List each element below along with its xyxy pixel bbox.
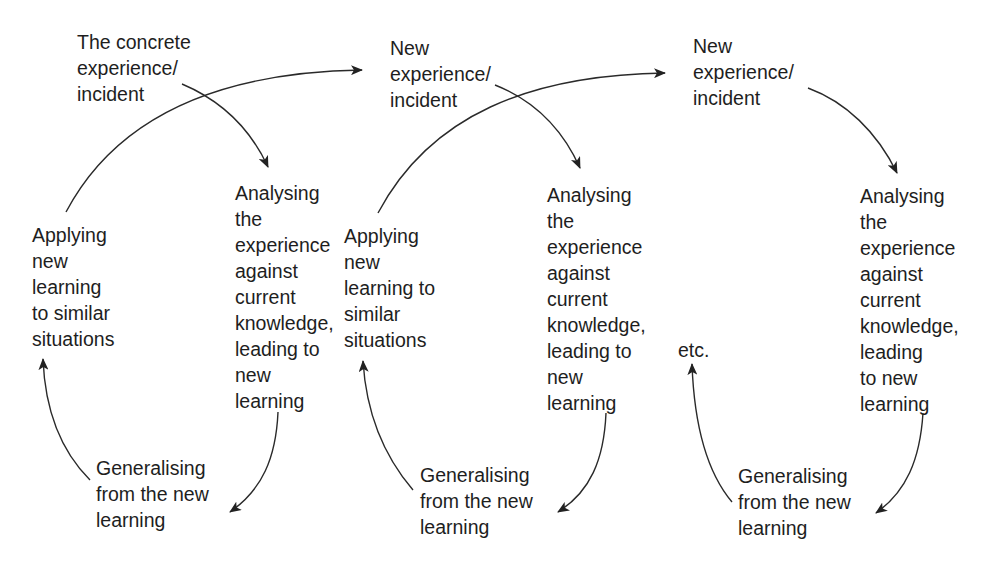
text-line: experience <box>235 232 334 258</box>
text-line: Analysing <box>547 182 646 208</box>
text-line: from the new <box>738 489 851 515</box>
arrow-generalising-to-applying-1 <box>43 359 90 480</box>
arrow-experience-to-analysing-3 <box>808 88 897 173</box>
text-line: from the new <box>96 481 209 507</box>
text-line: The concrete <box>77 29 191 55</box>
text-line: knowledge, <box>547 312 646 338</box>
arrow-generalising-to-applying-2 <box>363 361 413 490</box>
text-line: new <box>32 248 114 274</box>
text-line: against <box>547 260 646 286</box>
text-line: leading <box>860 339 959 365</box>
arrow-analysing-to-generalising-2 <box>558 413 606 512</box>
cycle-1-analysing-label: Analysing the experience against current… <box>235 180 334 414</box>
text-line: the <box>860 209 959 235</box>
text-line: from the new <box>420 488 533 514</box>
cycle-1-experience-label: The concrete experience/ incident <box>77 29 191 107</box>
text-line: against <box>235 258 334 284</box>
text-line: Generalising <box>738 463 851 489</box>
cycle-2-analysing-label: Analysing the experience against current… <box>547 182 646 416</box>
text-line: current <box>547 286 646 312</box>
text-line: knowledge, <box>235 310 334 336</box>
text-line: learning <box>235 388 334 414</box>
cycle-1-generalising-label: Generalising from the new learning <box>96 455 209 533</box>
text-line: incident <box>390 87 491 113</box>
text-line: experience/ <box>77 55 191 81</box>
text-line: learning <box>32 274 114 300</box>
text-line: incident <box>77 81 191 107</box>
text-line: New <box>390 35 491 61</box>
text-line: new <box>344 249 435 275</box>
text-line: etc. <box>678 337 709 363</box>
text-line: to similar <box>32 300 114 326</box>
cycle-2-experience-label: New experience/ incident <box>390 35 491 113</box>
text-line: situations <box>344 327 435 353</box>
text-line: incident <box>693 85 794 111</box>
text-line: the <box>235 206 334 232</box>
arrow-experience-to-analysing-1 <box>182 84 268 167</box>
text-line: experience <box>860 235 959 261</box>
text-line: New <box>693 33 794 59</box>
text-line: against <box>860 261 959 287</box>
text-line: situations <box>32 326 114 352</box>
arrow-analysing-to-generalising-3 <box>876 413 923 513</box>
experiential-learning-cycle-diagram: The concrete experience/ incident Analys… <box>0 0 995 561</box>
text-line: Generalising <box>420 462 533 488</box>
text-line: learning to <box>344 275 435 301</box>
text-line: learning <box>420 514 533 540</box>
text-line: similar <box>344 301 435 327</box>
arrow-analysing-to-generalising-1 <box>230 412 278 512</box>
cycle-3-analysing-label: Analysing the experience against current… <box>860 183 959 417</box>
text-line: Generalising <box>96 455 209 481</box>
text-line: Analysing <box>235 180 334 206</box>
cycle-3-generalising-label: Generalising from the new learning <box>738 463 851 541</box>
text-line: learning <box>547 390 646 416</box>
text-line: experience <box>547 234 646 260</box>
text-line: the <box>547 208 646 234</box>
text-line: new <box>547 364 646 390</box>
text-line: leading to <box>547 338 646 364</box>
cycle-2-generalising-label: Generalising from the new learning <box>420 462 533 540</box>
arrow-experience-to-analysing-2 <box>495 85 580 168</box>
text-line: current <box>860 287 959 313</box>
text-line: learning <box>860 391 959 417</box>
cycle-2-applying-label: Applying new learning to similar situati… <box>344 223 435 353</box>
text-line: new <box>235 362 334 388</box>
text-line: Analysing <box>860 183 959 209</box>
text-line: learning <box>96 507 209 533</box>
text-line: to new <box>860 365 959 391</box>
cycle-1-applying-label: Applying new learning to similar situati… <box>32 222 114 352</box>
text-line: experience/ <box>693 59 794 85</box>
text-line: Applying <box>32 222 114 248</box>
text-line: learning <box>738 515 851 541</box>
text-line: leading to <box>235 336 334 362</box>
text-line: experience/ <box>390 61 491 87</box>
text-line: knowledge, <box>860 313 959 339</box>
cycle-3-etc-label: etc. <box>678 337 709 363</box>
arrow-generalising-to-etc-3 <box>692 364 732 502</box>
text-line: current <box>235 284 334 310</box>
text-line: Applying <box>344 223 435 249</box>
cycle-3-experience-label: New experience/ incident <box>693 33 794 111</box>
